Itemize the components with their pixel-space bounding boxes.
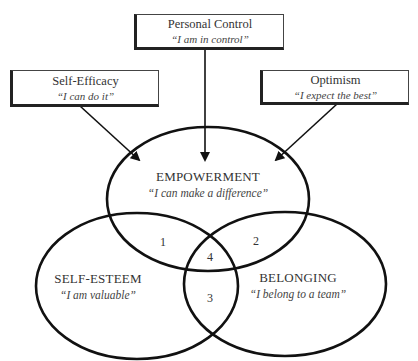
belonging-title: BELONGING	[238, 270, 358, 285]
empowerment-title: EMPOWERMENT	[128, 169, 288, 184]
personal-control-quote: “I am in control”	[137, 32, 283, 46]
optimism-quote: “I expect the best”	[263, 88, 408, 102]
self-efficacy-arrow	[80, 106, 139, 160]
belonging-label: BELONGING “I belong to a team”	[238, 270, 358, 302]
region-4-label: 4	[204, 250, 216, 265]
personal-control-box: Personal Control “I am in control”	[134, 14, 284, 50]
self-esteem-quote: “I am valuable”	[40, 288, 156, 303]
self-efficacy-quote: “I can do it”	[13, 89, 158, 103]
optimism-title: Optimism	[263, 73, 408, 88]
optimism-box: Optimism “I expect the best”	[260, 70, 409, 105]
self-esteem-label: SELF-ESTEEM “I am valuable”	[40, 271, 156, 303]
belonging-quote: “I belong to a team”	[238, 287, 358, 302]
region-3-label: 3	[204, 291, 216, 306]
region-2-label: 2	[250, 234, 262, 249]
personal-control-title: Personal Control	[137, 17, 283, 32]
empowerment-label: EMPOWERMENT “I can make a difference”	[128, 169, 288, 201]
region-1-label: 1	[157, 235, 169, 250]
self-esteem-title: SELF-ESTEEM	[40, 271, 156, 286]
self-efficacy-box: Self-Efficacy “I can do it”	[10, 70, 159, 107]
optimism-arrow	[276, 104, 337, 160]
empowerment-quote: “I can make a difference”	[128, 186, 288, 201]
self-efficacy-title: Self-Efficacy	[13, 74, 158, 89]
